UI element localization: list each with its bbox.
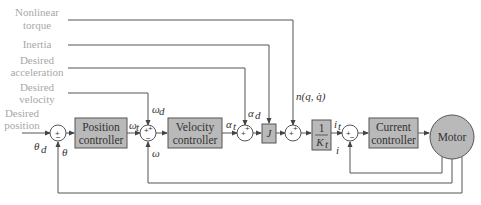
svg-text:−: −: [350, 133, 355, 142]
line-desired-acceleration: [68, 68, 245, 125]
current-controller-block: Current controller: [369, 118, 418, 148]
torque-gain-block: 1 K t: [312, 120, 331, 150]
svg-text:Motor: Motor: [438, 131, 467, 143]
svg-text:+: +: [148, 124, 153, 133]
signal-alpha-d: α: [248, 107, 254, 119]
signal-i-t: i: [334, 118, 337, 130]
svg-text:controller: controller: [79, 134, 124, 146]
label-desired-velocity-2: velocity: [19, 93, 55, 105]
svg-text:t: t: [233, 120, 237, 132]
velocity-controller-block: Velocity controller: [168, 118, 222, 148]
svg-text:Velocity: Velocity: [176, 121, 215, 134]
signal-omega: ω: [152, 147, 160, 159]
svg-text:t: t: [136, 121, 140, 133]
svg-text:controller: controller: [173, 134, 218, 146]
label-desired-acceleration-1: Desired: [20, 54, 55, 66]
label-desired-position-2: position: [4, 119, 40, 131]
svg-text:Current: Current: [376, 121, 412, 133]
feedback-position: [58, 142, 462, 193]
svg-text:K: K: [315, 136, 324, 148]
svg-text:d: d: [159, 105, 165, 117]
svg-text:t: t: [338, 120, 342, 132]
svg-text:+: +: [293, 124, 298, 133]
line-inertia: [68, 45, 269, 123]
motor-block: Motor: [430, 115, 474, 159]
signal-alpha-t: α: [226, 118, 232, 130]
feedback-paths: [58, 142, 462, 193]
input-labels: Nonlinear torque Inertia Desired acceler…: [4, 6, 64, 131]
signal-i: i: [336, 144, 339, 156]
svg-text:d: d: [41, 143, 47, 155]
label-desired-velocity-1: Desired: [20, 81, 55, 93]
signal-nonlinear: n(q, q̇): [296, 90, 326, 103]
svg-text:−: −: [146, 134, 151, 143]
signal-theta-d: θ: [34, 140, 40, 152]
svg-text:controller: controller: [371, 134, 416, 146]
label-inertia: Inertia: [23, 38, 52, 50]
signal-theta: θ: [62, 146, 68, 158]
inertia-gain-block: J: [262, 124, 276, 143]
label-nonlinear-torque-2: torque: [23, 19, 51, 31]
label-desired-acceleration-2: acceleration: [10, 66, 64, 78]
svg-text:d: d: [255, 109, 261, 121]
svg-text:1: 1: [319, 122, 325, 134]
position-controller-block: Position controller: [75, 118, 127, 148]
control-block-diagram: Nonlinear torque Inertia Desired acceler…: [0, 0, 481, 205]
label-nonlinear-torque-1: Nonlinear: [15, 6, 59, 18]
svg-text:Position: Position: [82, 121, 120, 133]
svg-text:+: +: [245, 124, 250, 133]
svg-text:−: −: [56, 133, 61, 142]
label-desired-position-1: Desired: [5, 107, 40, 119]
